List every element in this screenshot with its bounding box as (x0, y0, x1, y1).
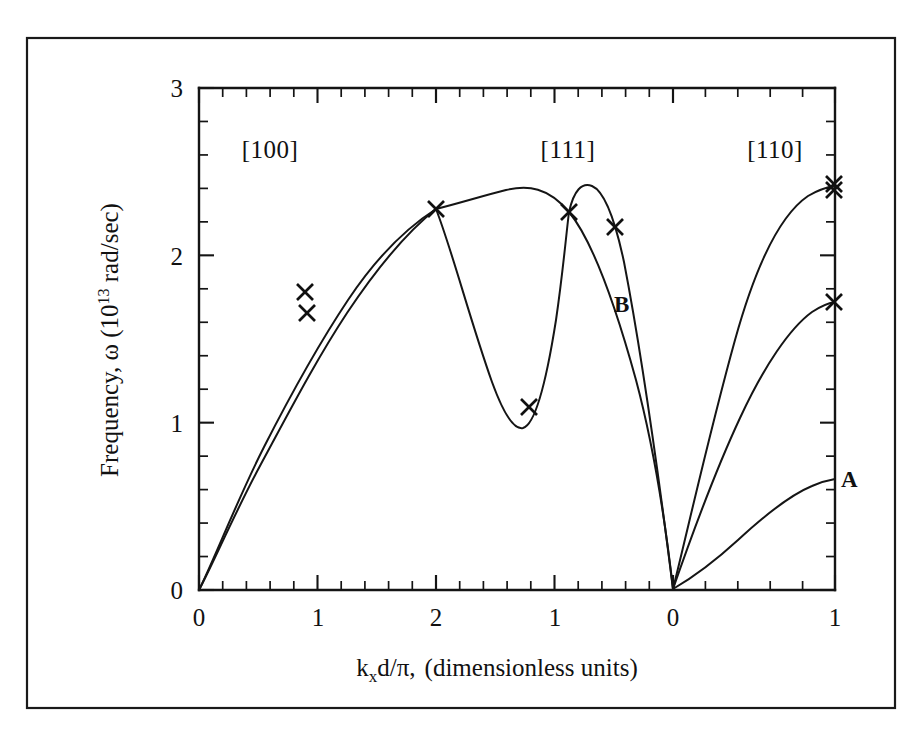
data-marker-x (297, 284, 313, 300)
region-label-100: [100] (242, 136, 299, 163)
branch-tag-A: A (841, 467, 858, 492)
y-axis-label: Frequency, ω (1013 rad/sec) (95, 203, 124, 477)
x-axis-label: kxd/π,(dimensionless units) (356, 654, 638, 686)
y-ticklabel-3: 3 (171, 75, 184, 102)
y-axis-label-lead: Frequency, ω (10 (96, 304, 124, 476)
x-axis-label-k: k (356, 654, 369, 681)
x-ticklabel-3: 1 (549, 604, 562, 631)
y-axis-label-tail: rad/sec) (96, 203, 124, 288)
x-axis-label-units: (dimensionless units) (425, 654, 638, 682)
y-axis-ticks (199, 88, 835, 590)
plot-axes (199, 88, 835, 590)
curve-100-upper (199, 209, 436, 590)
y-ticklabel-2: 2 (171, 243, 184, 270)
x-ticklabel-2: 2 (430, 604, 443, 631)
x-axis-label-dpi: d/π, (377, 654, 415, 681)
data-marker-x (521, 399, 537, 415)
data-marker-x (607, 219, 623, 235)
data-marker-x (299, 305, 315, 321)
x-ticklabel-4: 0 (667, 604, 680, 631)
data-marker-x (428, 201, 444, 217)
curve-110-lowest-A (673, 479, 835, 589)
curve-111-upper (436, 188, 673, 589)
curve-110-middle (673, 302, 835, 589)
x-ticklabel-0: 0 (193, 604, 206, 631)
curve-100-lower (199, 209, 436, 590)
phonon-dispersion-chart: [100] [111] [110] B A 3 2 1 0 0 1 2 1 0 … (0, 0, 918, 753)
y-ticklabel-0: 0 (171, 577, 184, 604)
x-axis-ticks (199, 88, 835, 590)
x-ticklabel-1: 1 (312, 604, 325, 631)
branch-tag-B: B (614, 292, 629, 317)
y-axis-label-exponent: 13 (95, 288, 112, 304)
y-ticklabel-1: 1 (171, 410, 184, 437)
figure-root: [100] [111] [110] B A 3 2 1 0 0 1 2 1 0 … (0, 0, 918, 753)
region-label-110: [110] (747, 136, 803, 163)
x-ticklabel-5: 1 (829, 604, 842, 631)
dispersion-curves (199, 185, 835, 590)
region-label-111: [111] (541, 136, 596, 163)
